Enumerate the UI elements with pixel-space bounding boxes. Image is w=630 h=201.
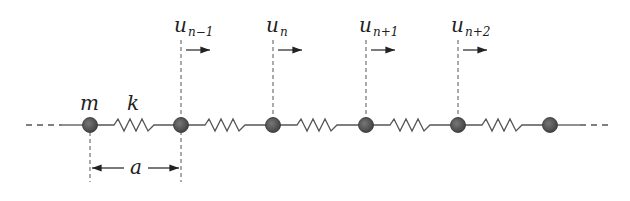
spring-4 <box>366 119 458 131</box>
svg-text:u: u <box>359 13 372 37</box>
svg-text:u: u <box>174 13 187 37</box>
svg-text:u: u <box>451 13 464 37</box>
displacement-label: u n+2 <box>451 13 490 39</box>
mass-icon <box>359 118 374 133</box>
svg-text:u: u <box>266 13 279 37</box>
springs <box>90 119 550 131</box>
spring-3 <box>273 119 366 131</box>
spring-2 <box>181 119 273 131</box>
spring-5 <box>458 119 550 131</box>
spring-label: k <box>127 91 139 115</box>
svg-text:n+1: n+1 <box>373 25 398 39</box>
mass-icon <box>451 118 466 133</box>
mass-spring-chain-diagram: m k a u n−1 u n u n+1 u n+2 <box>0 0 630 201</box>
displacement-label: u n−1 <box>174 13 213 39</box>
svg-text:n+2: n+2 <box>465 25 490 39</box>
reference-lines <box>90 40 458 182</box>
mass-icon <box>174 118 189 133</box>
mass-icon <box>266 118 281 133</box>
displacement-label: u n <box>266 13 288 39</box>
mass-icon <box>83 118 98 133</box>
mass-label: m <box>80 91 99 115</box>
svg-text:n: n <box>280 25 288 39</box>
spring-1 <box>90 119 181 131</box>
svg-text:n−1: n−1 <box>188 25 213 39</box>
mass-icon <box>543 118 558 133</box>
spacing-label: a <box>130 155 142 179</box>
displacement-label: u n+1 <box>359 13 398 39</box>
